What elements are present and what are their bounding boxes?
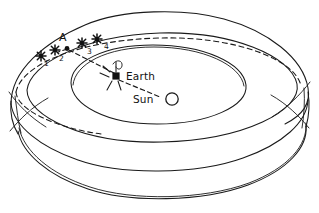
label-sun: Sun	[133, 93, 154, 105]
label-star-2: 2	[59, 54, 64, 63]
label-earth: Earth	[126, 70, 155, 82]
outer-rim-top-ellipse-lower	[11, 100, 308, 171]
label-point-a: A	[59, 31, 67, 44]
earth-marker-arc	[113, 61, 122, 69]
torus-inner-hole	[71, 45, 246, 124]
label-star-1: 1	[44, 59, 49, 68]
label-star-3: 3	[87, 47, 92, 56]
zodiacal-torus	[9, 12, 310, 199]
label-star-4: 4	[104, 42, 109, 51]
diagram-canvas: A 1 2 3 4 Earth Sun	[0, 0, 319, 213]
star-3-glyph	[77, 38, 87, 48]
star-4-glyph	[92, 34, 102, 44]
outer-rim-top-ellipse	[11, 12, 309, 124]
point-a-marker	[65, 46, 70, 51]
earth-marker	[100, 61, 122, 90]
sun-circle-marker	[166, 93, 178, 105]
inner-hole-ellipse	[71, 45, 246, 124]
outer-rim-bottom-arc-echo	[19, 123, 306, 197]
outer-rim-bottom-arc	[18, 126, 306, 199]
astronomy-diagram-svg: A 1 2 3 4 Earth Sun	[0, 0, 319, 213]
right-edge-crossing-2	[271, 95, 309, 128]
inner-hole-echo	[73, 47, 244, 86]
